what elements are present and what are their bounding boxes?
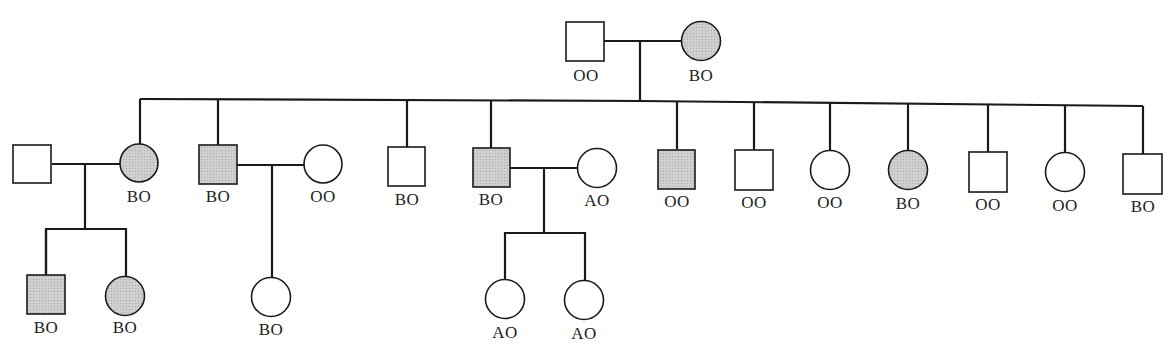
female-unaffected-II10 [1046, 153, 1085, 192]
genotype-label: OO [817, 194, 843, 211]
genotype-label: BO [206, 188, 231, 205]
male-unaffected-II11 [1123, 154, 1162, 194]
genotype-label: BO [1131, 198, 1156, 215]
female-unaffected-III5 [565, 281, 604, 320]
genotype-label: AO [492, 324, 518, 341]
male-unaffected-I1 [566, 22, 604, 61]
genotype-label: BO [689, 67, 714, 84]
sibship-line-II [140, 99, 1143, 106]
genotype-label: OO [664, 193, 690, 210]
genotype-label: OO [573, 67, 599, 84]
genotype-label: BO [127, 188, 152, 205]
genotype-label: BO [34, 319, 59, 336]
male-affected-II5 [658, 150, 695, 189]
female-affected-II8 [889, 151, 928, 190]
genotype-label: BO [259, 321, 284, 338]
female-unaffected-II7 [811, 151, 850, 190]
male-affected-II2 [199, 145, 237, 184]
genotype-label: BO [896, 195, 921, 212]
male-unaffected-II9 [969, 152, 1007, 192]
female-affected-I2 [682, 22, 721, 61]
female-unaffected-III3 [252, 278, 291, 317]
female-spouse-II2 [304, 145, 342, 183]
genotype-label: AO [584, 192, 610, 209]
male-affected-III1 [27, 275, 65, 314]
male-unaffected-II6 [735, 150, 773, 190]
male-affected-II4 [473, 148, 510, 187]
genotype-label: AO [571, 325, 597, 342]
female-affected-II1 [120, 144, 158, 182]
genotype-label: OO [1052, 197, 1078, 214]
genotype-label: OO [310, 188, 336, 205]
female-unaffected-III4 [486, 280, 525, 319]
female-spouse-II4 [578, 149, 617, 188]
genotype-label: OO [741, 194, 767, 211]
genotype-label: BO [395, 191, 420, 208]
pedigree-diagram: OO BO BO BO OO BO BO AO OO OO OO BO OO O… [0, 0, 1171, 353]
genotype-label: BO [479, 191, 504, 208]
male-spouse-II [13, 145, 51, 183]
pedigree-chart [0, 0, 1171, 353]
male-unaffected-II3 [388, 147, 425, 186]
female-affected-III2 [106, 277, 145, 316]
genotype-label: OO [975, 196, 1001, 213]
genotype-label: BO [113, 319, 138, 336]
